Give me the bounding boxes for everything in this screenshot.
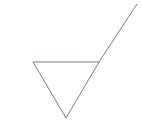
diagonal-ray-line: [99, 4, 137, 62]
downward-triangle: [33, 62, 99, 118]
diagonal-ray: [99, 4, 137, 62]
triangle-right-edge: [66, 62, 99, 118]
line-figure-svg: [0, 0, 142, 135]
triangle-left-edge: [33, 62, 66, 118]
figure-canvas: watermark: [0, 0, 142, 135]
